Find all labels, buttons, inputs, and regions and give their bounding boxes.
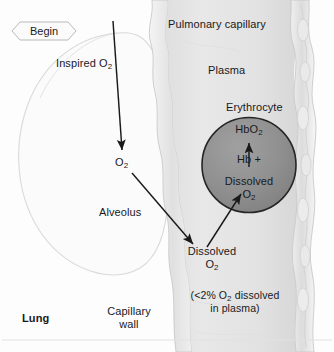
begin-badge-label: Begin bbox=[30, 25, 58, 37]
erythrocyte-label: Erythrocyte bbox=[226, 101, 283, 113]
pulmonary-capillary-label: Pulmonary capillary bbox=[168, 18, 266, 30]
begin-badge[interactable]: Begin bbox=[11, 21, 77, 41]
dissolved-o2-erythrocyte-label: Dissolved O2 bbox=[206, 175, 292, 201]
hbo2-label: HbO2 bbox=[219, 123, 279, 135]
lung-label: Lung bbox=[22, 312, 49, 324]
hb-plus-label: Hb + bbox=[219, 153, 279, 165]
capillary-wall-label: Capillary wall bbox=[98, 305, 160, 331]
plasma-label: Plasma bbox=[208, 64, 245, 76]
oxygen-diffusion-diagram: Begin Inspired O2 O2 Alveolus Lung Capil… bbox=[0, 0, 334, 352]
inspired-o2-label: Inspired O2 bbox=[56, 57, 112, 69]
dissolved-o2-plasma-label: Dissolved O2 bbox=[172, 245, 252, 271]
alveolar-o2-label: O2 bbox=[115, 156, 128, 168]
alveolus-label: Alveolus bbox=[99, 206, 141, 218]
plasma-dissolved-note: (<2% O2 dissolved in plasma) bbox=[170, 289, 300, 315]
